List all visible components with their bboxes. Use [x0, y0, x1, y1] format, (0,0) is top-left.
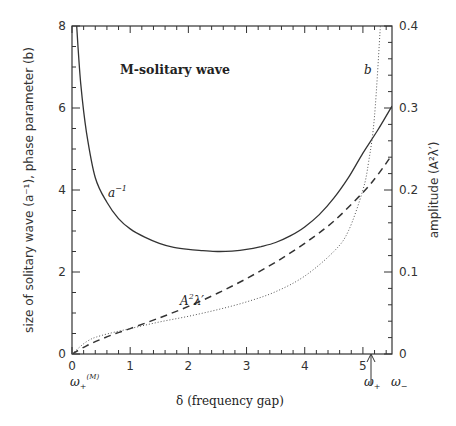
series-line	[77, 26, 392, 252]
y2-tick-label: 0.1	[399, 265, 418, 279]
y-tick-label: 2	[58, 265, 66, 279]
y-tick-label: 6	[58, 101, 66, 115]
omega-plus-m-annotation: ω+(M)	[70, 373, 99, 391]
y-tick-label: 8	[58, 19, 66, 33]
omega-minus-annotation: ω−	[391, 375, 408, 391]
y-axis-label: size of solitary wave (a⁻¹), phase param…	[22, 47, 36, 333]
chart-title: M-solitary wave	[120, 62, 230, 77]
omega-plus-annotation: ω+	[364, 375, 381, 391]
series-label-b: b	[364, 63, 372, 77]
x-axis-label: δ (frequency gap)	[176, 394, 284, 408]
x-tick-label: 5	[359, 359, 367, 373]
x-tick-label: 2	[185, 359, 193, 373]
y-tick-label: 4	[58, 183, 66, 197]
chart: 0123450246800.10.20.30.4 M-solitary wave…	[0, 0, 456, 426]
y2-tick-label: 0.2	[399, 183, 418, 197]
y2-tick-label: 0.3	[399, 101, 418, 115]
x-tick-label: 4	[301, 359, 309, 373]
y-tick-label: 0	[58, 347, 66, 361]
x-tick-label: 3	[243, 359, 251, 373]
series-label-amplitude: A2λ′	[179, 292, 204, 308]
y2-tick-label: 0	[399, 347, 407, 361]
x-tick-label: 0	[68, 359, 76, 373]
x-tick-label: 1	[126, 359, 134, 373]
series-label-a-inverse: a−1	[108, 184, 127, 200]
y2-tick-label: 0.4	[399, 19, 418, 33]
y2-axis-label: amplitude (A²λ′)	[427, 142, 441, 239]
